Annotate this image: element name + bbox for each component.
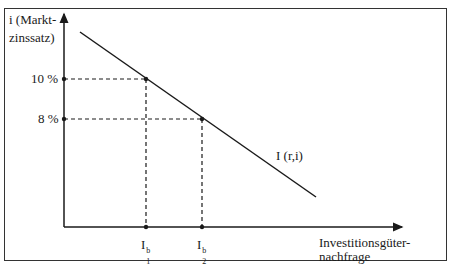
- y-axis-label-line2: zinssatz): [9, 30, 54, 45]
- y-tick-8: 8 %: [38, 111, 59, 126]
- y-axis-label-line1: i (Markt-: [9, 12, 56, 27]
- investment-demand-diagram: [0, 0, 452, 267]
- x-tick-i1-sub: 1: [146, 254, 150, 267]
- x-tick-i2: Ib2: [197, 237, 207, 252]
- y-tick-10: 10 %: [31, 71, 58, 86]
- x-tick-i2-sub: 2: [202, 254, 206, 267]
- point-i2-axis: [200, 225, 204, 229]
- point-curve-8: [200, 117, 204, 121]
- x-axis-label-line1: Investitionsgüter-: [319, 235, 410, 250]
- x-axis-label-line2: nachfrage: [319, 249, 370, 264]
- point-curve-10: [144, 77, 148, 81]
- x-tick-i2-base: I: [197, 237, 201, 252]
- curve-label: I (r,i): [276, 148, 303, 163]
- point-8-axis: [62, 117, 66, 121]
- point-i1-axis: [144, 225, 148, 229]
- point-10-axis: [62, 77, 66, 81]
- x-tick-i1: Ib1: [141, 237, 151, 252]
- x-tick-i1-base: I: [141, 237, 145, 252]
- investment-demand-curve: [80, 32, 316, 197]
